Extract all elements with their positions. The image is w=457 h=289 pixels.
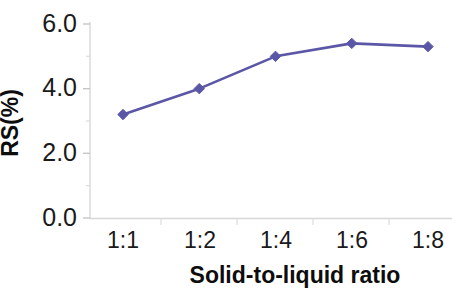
x-tick-label-5: 1:8 xyxy=(412,227,444,253)
y-tick-label-0: 0.0 xyxy=(42,203,77,231)
y-axis-title: RS(%) xyxy=(0,89,23,157)
x-tick-label-1: 1:1 xyxy=(107,227,139,253)
x-tick-label-3: 1:4 xyxy=(260,227,292,253)
y-tick-label-6: 6.0 xyxy=(42,9,77,37)
x-tick-label-2: 1:2 xyxy=(184,227,216,253)
y-tick-label-4: 4.0 xyxy=(42,73,77,101)
x-tick-label-4: 1:6 xyxy=(336,227,368,253)
y-tick-label-2: 2.0 xyxy=(42,138,77,166)
chart-canvas: 6.0 4.0 2.0 0.0 1:1 1:2 1:4 1:6 1:8 Soli… xyxy=(0,0,457,289)
x-axis-title: Solid-to-liquid ratio xyxy=(190,262,401,288)
line-chart: 6.0 4.0 2.0 0.0 1:1 1:2 1:4 1:6 1:8 Soli… xyxy=(0,0,457,289)
